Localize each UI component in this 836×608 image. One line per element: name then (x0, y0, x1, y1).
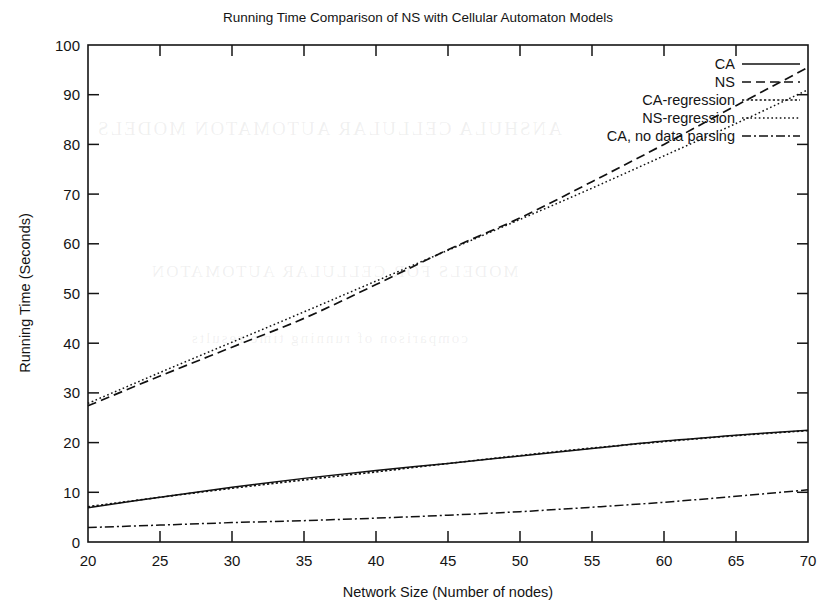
legend-label-3: NS-regression (642, 110, 735, 126)
legend-label-0: CA (715, 56, 735, 72)
y-tick-label-10: 10 (63, 484, 80, 501)
y-tick-label-70: 70 (63, 186, 80, 203)
y-axis-label: Running Time (Seconds) (17, 213, 33, 373)
y-tick-label-0: 0 (72, 534, 80, 551)
x-tick-label-65: 65 (728, 552, 745, 569)
chart-title: Running Time Comparison of NS with Cellu… (223, 10, 613, 25)
series-line-ca-regression (88, 431, 808, 507)
y-tick-labels: 0102030405060708090100 (55, 37, 80, 551)
y-tick-label-100: 100 (55, 37, 80, 54)
x-tick-label-55: 55 (584, 552, 601, 569)
x-tick-labels: 2025303540455055606570 (80, 552, 817, 569)
x-tick-label-45: 45 (440, 552, 457, 569)
y-tick-label-80: 80 (63, 136, 80, 153)
x-tick-label-30: 30 (224, 552, 241, 569)
y-tick-label-30: 30 (63, 384, 80, 401)
x-tick-label-60: 60 (656, 552, 673, 569)
legend-label-4: CA, no data parsing (607, 128, 735, 144)
series-line-ca (88, 430, 808, 508)
chart-svg: Running Time Comparison of NS with Cellu… (0, 0, 836, 608)
chart-figure: ANSHULA CELLULAR AUTOMATON MODELS MODELS… (0, 0, 836, 608)
x-tick-label-70: 70 (800, 552, 817, 569)
y-tick-label-50: 50 (63, 285, 80, 302)
chart-legend: CANSCA-regressionNS-regressionCA, no dat… (607, 56, 800, 144)
series-line-ca-no-data-parsing (88, 490, 808, 528)
x-tick-label-50: 50 (512, 552, 529, 569)
x-tick-label-25: 25 (152, 552, 169, 569)
x-axis-label: Network Size (Number of nodes) (343, 584, 553, 600)
x-tick-label-20: 20 (80, 552, 97, 569)
y-tick-label-40: 40 (63, 335, 80, 352)
x-tick-label-35: 35 (296, 552, 313, 569)
y-tick-label-90: 90 (63, 86, 80, 103)
legend-label-1: NS (715, 74, 735, 90)
x-tick-label-40: 40 (368, 552, 385, 569)
legend-label-2: CA-regression (642, 92, 735, 108)
y-tick-label-60: 60 (63, 235, 80, 252)
y-tick-label-20: 20 (63, 434, 80, 451)
